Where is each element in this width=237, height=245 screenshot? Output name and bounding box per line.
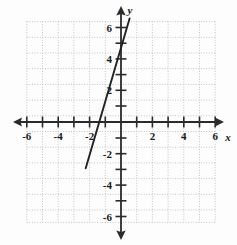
y-tick-label-6: 6 — [107, 22, 113, 34]
x-axis-name-label: x — [224, 131, 231, 143]
x-tick-label-4: 4 — [181, 130, 187, 142]
x-tick-label-neg4: -4 — [54, 130, 64, 142]
x-tick-label-2: 2 — [150, 130, 156, 142]
y-axis-name-label: y — [126, 4, 133, 16]
y-tick-label-neg6: -6 — [103, 211, 113, 223]
y-tick-label-neg2: -2 — [103, 148, 113, 160]
coordinate-plane-svg: -6 -4 -2 2 4 6 6 4 2 -2 -4 -6 x y — [0, 0, 237, 245]
x-tick-label-6: 6 — [212, 130, 218, 142]
graph-screenshot: -6 -4 -2 2 4 6 6 4 2 -2 -4 -6 x y — [0, 0, 237, 245]
x-tick-label-neg6: -6 — [22, 130, 32, 142]
y-tick-label-neg4: -4 — [103, 179, 113, 191]
y-tick-label-4: 4 — [107, 53, 113, 65]
